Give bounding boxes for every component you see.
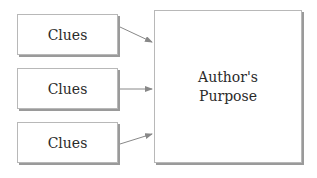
arrow-3 (120, 134, 152, 144)
arrow-1 (120, 27, 152, 42)
arrows (0, 0, 317, 178)
